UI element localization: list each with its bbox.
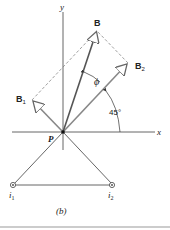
magnetic-field-diagram: y x P B B2 B1 ϕ 45° i1 i2 (b) <box>0 0 170 230</box>
line-p-i1 <box>14 132 63 184</box>
origin-label: P <box>48 134 54 144</box>
vector-b-label: B <box>94 18 101 28</box>
point-p <box>61 130 65 134</box>
vector-b2-label: B2 <box>135 61 146 72</box>
phi-label: ϕ <box>94 76 99 87</box>
current-i2-label: i2 <box>108 190 114 201</box>
current-i1-label: i1 <box>9 190 15 201</box>
x-axis-label: x <box>156 127 161 137</box>
angle-45-label: 45° <box>109 108 121 117</box>
current-i2-icon <box>109 182 114 187</box>
dashed-line-b2-b <box>97 31 128 63</box>
y-axis-label: y <box>59 2 64 12</box>
vector-b <box>63 33 96 132</box>
vector-b1 <box>34 102 63 132</box>
current-i1-icon <box>10 182 15 187</box>
figure-caption: (b) <box>56 206 67 216</box>
line-p-i2 <box>63 132 112 184</box>
dashed-line-b1-b <box>32 31 97 100</box>
vector-b1-label: B1 <box>16 94 27 105</box>
